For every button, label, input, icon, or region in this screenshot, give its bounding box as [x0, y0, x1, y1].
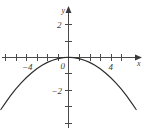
x-tick-label-4: 4 [109, 62, 114, 72]
parabola-figure: −4 4 2 −2 0 y x [0, 0, 147, 131]
y-tick-label-2: 2 [57, 20, 62, 30]
x-axis-label: x [136, 59, 141, 68]
plot-svg: −4 4 2 −2 0 y x [0, 0, 147, 131]
origin-label: 0 [61, 61, 66, 71]
x-tick-label-neg4: −4 [22, 62, 33, 72]
y-tick-label-neg2: −2 [52, 86, 63, 96]
y-axis-arrow-icon [66, 6, 72, 13]
y-axis-label: y [61, 6, 66, 15]
